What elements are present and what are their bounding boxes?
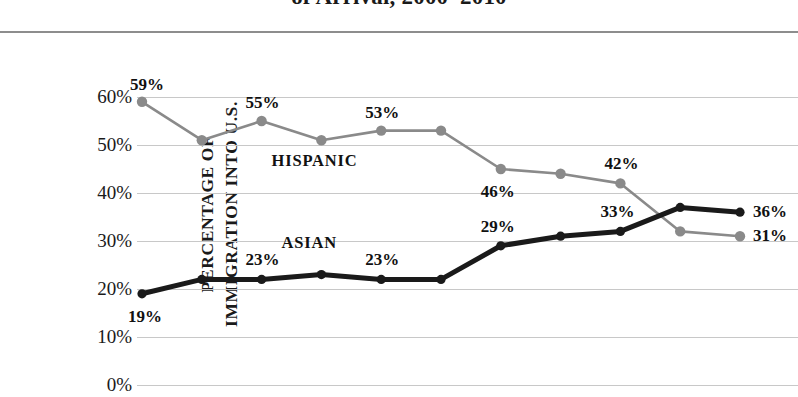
data-label-asian-10: 36% bbox=[753, 203, 787, 220]
marker-hispanic-8 bbox=[615, 178, 625, 188]
series-line-asian bbox=[137, 203, 744, 299]
marker-asian-7 bbox=[556, 232, 565, 241]
data-label-asian-2: 23% bbox=[246, 251, 280, 268]
marker-asian-9 bbox=[676, 203, 685, 212]
marker-hispanic-5 bbox=[436, 125, 446, 135]
data-label-hispanic-6: 46% bbox=[481, 183, 515, 200]
y-axis-title: PERCENTAGE OF IMMIGRATION INTO U.S. bbox=[0, 31, 74, 397]
y-tick-label-20: 20% bbox=[76, 279, 132, 298]
series-annotation-asian: ASIAN bbox=[282, 234, 337, 251]
marker-asian-5 bbox=[436, 275, 445, 284]
marker-hispanic-7 bbox=[555, 169, 565, 179]
marker-hispanic-9 bbox=[675, 226, 685, 236]
marker-asian-1 bbox=[197, 275, 206, 284]
data-label-asian-6: 29% bbox=[481, 218, 515, 235]
marker-hispanic-10 bbox=[735, 231, 745, 241]
y-tick-label-50: 50% bbox=[76, 135, 132, 154]
marker-hispanic-6 bbox=[496, 164, 506, 174]
y-tick-label-60: 60% bbox=[76, 87, 132, 106]
y-tick-label-10: 10% bbox=[76, 327, 132, 346]
marker-asian-0 bbox=[137, 289, 146, 298]
polyline-hispanic bbox=[142, 102, 740, 236]
y-tick-label-30: 30% bbox=[76, 231, 132, 250]
data-label-hispanic-2: 55% bbox=[246, 94, 280, 111]
y-axis-tick-labels: 60%50%40%30%20%10%0% bbox=[70, 33, 132, 397]
marker-asian-6 bbox=[496, 241, 505, 250]
marker-hispanic-2 bbox=[256, 116, 266, 126]
y-tick-label-40: 40% bbox=[76, 183, 132, 202]
marker-hispanic-3 bbox=[316, 135, 326, 145]
marker-hispanic-4 bbox=[376, 125, 386, 135]
marker-asian-10 bbox=[735, 208, 744, 217]
marker-asian-2 bbox=[257, 275, 266, 284]
marker-asian-4 bbox=[377, 275, 386, 284]
data-label-asian-8: 33% bbox=[600, 203, 634, 220]
marker-hispanic-0 bbox=[137, 97, 147, 107]
series-canvas bbox=[137, 33, 798, 397]
marker-asian-3 bbox=[317, 270, 326, 279]
marker-asian-8 bbox=[616, 227, 625, 236]
data-label-hispanic-4: 53% bbox=[365, 104, 399, 121]
data-label-hispanic-0: 59% bbox=[130, 76, 164, 93]
y-tick-label-0: 0% bbox=[76, 375, 132, 394]
data-label-asian-0: 19% bbox=[128, 308, 162, 325]
data-label-asian-4: 23% bbox=[365, 251, 399, 268]
series-annotation-hispanic: HISPANIC bbox=[272, 152, 358, 169]
data-label-hispanic-10: 31% bbox=[753, 227, 787, 244]
chart-title: of Arrival, 2000–2010 bbox=[0, 0, 798, 10]
data-label-hispanic-8: 42% bbox=[604, 155, 638, 172]
marker-hispanic-1 bbox=[197, 135, 207, 145]
plot-area: 59%55%53%46%42%31%19%23%23%29%33%36% HIS… bbox=[137, 33, 798, 397]
